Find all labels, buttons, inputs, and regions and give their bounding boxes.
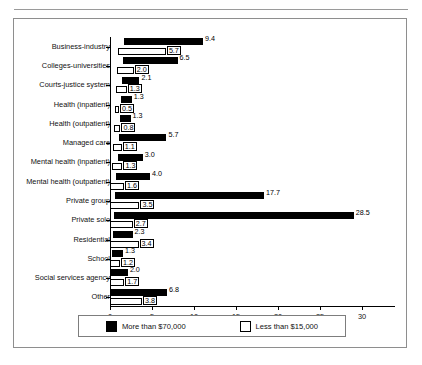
bar-dark-colleges-universities: [123, 57, 178, 64]
bar-value-light-health-inpatient: 0.5: [120, 104, 134, 113]
category-label-managed-care: Managed care: [63, 139, 110, 147]
category-label-courts-justice-system: Courts-justice system: [39, 81, 110, 89]
x-tick-5: [152, 307, 153, 310]
y-tick-6: [106, 162, 110, 163]
chart-axes-area: 051015202530 9.45.76.52.02.11.31.30.51.3…: [110, 33, 395, 333]
chart-legend: More than $70,000 Less than $15,000: [78, 315, 346, 337]
bar-value-dark-business-industry: 9.4: [205, 35, 215, 42]
bar-value-dark-health-inpatient: 1.3: [134, 93, 144, 100]
category-label-residential: Residential: [73, 236, 110, 244]
bar-light-private-solo: [110, 221, 133, 228]
figure-frame: Business-industryColleges-universitiesCo…: [13, 18, 407, 348]
legend-item-less-than-15000: Less than $15,000: [240, 321, 319, 332]
bar-value-dark-school: 1.3: [125, 247, 135, 254]
bar-light-private-group: [110, 202, 139, 209]
bar-value-light-mental-health-outpatient: 1.6: [125, 181, 139, 190]
bar-dark-health-inpatient: [121, 96, 132, 103]
x-tick-25: [320, 307, 321, 310]
bar-value-light-mental-health-inpatient: 1.3: [123, 161, 137, 170]
bar-dark-business-industry: [124, 38, 203, 45]
x-tick-label-30: 30: [352, 312, 372, 321]
bar-value-dark-health-outpatient: 1.3: [133, 112, 143, 119]
bar-value-light-private-group: 3.5: [140, 200, 154, 209]
bar-dark-residential: [113, 231, 132, 238]
bar-light-business-industry: [118, 48, 166, 55]
category-label-health-inpatient: Health (inpatient): [54, 101, 110, 109]
bar-dark-private-solo: [114, 212, 353, 219]
category-label-social-services-agency: Social services agency: [35, 274, 110, 282]
bar-value-dark-colleges-universities: 6.5: [180, 54, 190, 61]
legend-item-more-than-70000: More than $70,000: [106, 321, 186, 332]
legend-label-more-than-70000: More than $70,000: [122, 322, 186, 331]
x-tick-20: [278, 307, 279, 310]
bar-value-light-other: 3.8: [143, 296, 157, 305]
x-tick-15: [236, 307, 237, 310]
bar-value-dark-other: 6.8: [169, 286, 179, 293]
top-divider-rule: [14, 9, 408, 10]
bar-dark-mental-health-outpatient: [116, 173, 150, 180]
bar-value-dark-residential: 2.3: [135, 228, 145, 235]
bar-dark-social-services-agency: [111, 269, 128, 276]
category-label-business-industry: Business-industry: [52, 43, 110, 51]
y-tick-4: [106, 124, 110, 125]
bar-dark-mental-health-inpatient: [118, 154, 143, 161]
bar-value-dark-social-services-agency: 2.0: [130, 266, 140, 273]
bar-light-courts-justice-system: [116, 86, 127, 93]
x-tick-10: [194, 307, 195, 310]
y-tick-7: [106, 182, 110, 183]
bar-dark-other: [110, 289, 167, 296]
y-tick-3: [106, 105, 110, 106]
legend-label-less-than-15000: Less than $15,000: [256, 322, 319, 331]
bar-value-dark-private-group: 17.7: [266, 189, 280, 196]
bar-light-other: [110, 298, 142, 305]
bar-value-light-residential: 3.4: [140, 239, 154, 248]
y-tick-0: [106, 47, 110, 48]
bar-value-light-business-industry: 5.7: [167, 46, 181, 55]
bar-value-dark-managed-care: 5.7: [168, 131, 178, 138]
bar-value-dark-courts-justice-system: 2.1: [141, 74, 151, 81]
bar-value-light-social-services-agency: 1.7: [125, 277, 139, 286]
category-axis-labels: Business-industryColleges-universitiesCo…: [18, 33, 110, 303]
category-label-mental-health-outpatient: Mental health (outpatient): [26, 178, 110, 186]
bar-value-light-managed-care: 1.1: [123, 142, 137, 151]
y-tick-1: [106, 66, 110, 67]
bar-light-managed-care: [113, 144, 122, 151]
category-label-mental-health-inpatient: Mental health (inpatient): [31, 158, 110, 166]
bar-dark-courts-justice-system: [122, 77, 140, 84]
legend-swatch-dark: [106, 321, 117, 332]
x-tick-0: [110, 307, 111, 310]
bar-dark-school: [112, 250, 123, 257]
bar-light-school: [110, 260, 120, 267]
x-tick-30: [362, 307, 363, 310]
bar-light-health-outpatient: [114, 125, 121, 132]
category-label-private-group: Private group: [66, 197, 110, 205]
bar-value-dark-private-solo: 28.5: [356, 209, 370, 216]
category-label-colleges-universities: Colleges-universities: [42, 62, 110, 70]
bar-light-health-inpatient: [115, 106, 119, 113]
bar-light-mental-health-outpatient: [110, 183, 123, 190]
y-tick-2: [106, 85, 110, 86]
bar-dark-health-outpatient: [120, 115, 131, 122]
bar-dark-private-group: [115, 192, 264, 199]
bar-value-dark-mental-health-outpatient: 4.0: [152, 170, 162, 177]
bar-light-social-services-agency: [110, 279, 124, 286]
bar-light-mental-health-inpatient: [112, 163, 123, 170]
y-tick-5: [106, 143, 110, 144]
bar-dark-managed-care: [119, 134, 167, 141]
legend-swatch-light: [240, 321, 251, 332]
category-label-private-solo: Private solo: [71, 216, 110, 224]
bar-value-dark-mental-health-inpatient: 3.0: [145, 151, 155, 158]
bar-value-light-health-outpatient: 0.8: [121, 123, 135, 132]
category-label-health-outpatient: Health (outpatient): [49, 120, 110, 128]
bar-chart-plot: Business-industryColleges-universitiesCo…: [14, 19, 408, 349]
bar-light-colleges-universities: [117, 67, 134, 74]
